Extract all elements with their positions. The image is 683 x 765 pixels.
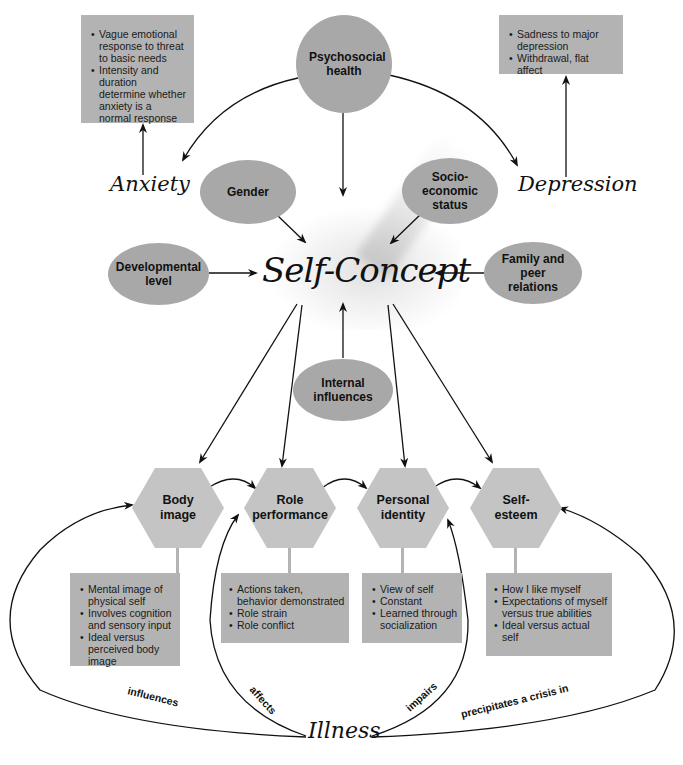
family-peer-label: Family and peer relations: [497, 252, 569, 294]
depression-label: Depression: [518, 172, 638, 196]
personal-identity-note: Learned through socialization: [372, 607, 458, 631]
self-esteem-note: Ideal versus actual self: [494, 619, 608, 643]
illness-label: Illness: [308, 718, 381, 743]
internal-influences-node: Internal influences: [293, 359, 393, 421]
stem-body-image: [176, 548, 179, 573]
anxiety-note: Intensity and duration determine whether…: [91, 64, 186, 124]
self-esteem-note: How I like myself: [494, 583, 608, 595]
role-performance-note: Role conflict: [229, 619, 345, 631]
edge-label-impairs: impairs: [403, 679, 439, 713]
body-image-note: Mental image of physical self: [80, 583, 174, 607]
stem-personal-identity: [401, 548, 404, 573]
edge-label-precipitates: precipitates a crisis in: [460, 682, 570, 720]
depression-note: Withdrawal, flat affect: [509, 52, 615, 76]
socioeconomic-node: Socio-economic status: [402, 158, 498, 224]
personal-identity-note-box: View of self Constant Learned through so…: [362, 573, 462, 643]
gender-node: Gender: [200, 160, 296, 224]
psychosocial-health-label: Psychosocial health: [309, 50, 379, 78]
role-performance-note-box: Actions taken, behavior demonstrated Rol…: [221, 573, 349, 643]
body-image-note: Ideal versus perceived body image: [80, 631, 174, 667]
role-performance-note: Role strain: [229, 607, 345, 619]
depression-note-box: Sadness to major depression Withdrawal, …: [499, 15, 623, 74]
role-performance-label: Role performance: [250, 493, 330, 523]
personal-identity-note: View of self: [372, 583, 458, 595]
body-image-note: Involves cognition and sensory input: [80, 607, 174, 631]
stem-role-performance: [288, 548, 291, 573]
family-peer-node: Family and peer relations: [484, 242, 582, 304]
role-performance-note: Actions taken, behavior demonstrated: [229, 583, 345, 607]
personal-identity-label: Personal identity: [368, 493, 438, 523]
edge-label-influences: influences: [127, 684, 180, 708]
self-esteem-note: Expectations of myself versus true abili…: [494, 595, 608, 619]
self-esteem-note-box: How I like myself Expectations of myself…: [486, 573, 612, 656]
body-image-label: Body image: [153, 493, 203, 523]
depression-note: Sadness to major depression: [509, 28, 615, 52]
self-esteem-label: Self-esteem: [494, 493, 538, 523]
body-image-note-box: Mental image of physical self Involves c…: [70, 573, 180, 666]
developmental-level-label: Developmental level: [114, 260, 204, 288]
edge-label-affects: affects: [248, 683, 280, 716]
gender-label: Gender: [227, 185, 269, 199]
anxiety-note-box: Vague emotional response to threat to ba…: [81, 15, 194, 123]
self-concept-title: Self-Concept: [262, 250, 470, 290]
psychosocial-health-node: Psychosocial health: [296, 15, 392, 113]
anxiety-note: Vague emotional response to threat to ba…: [91, 28, 186, 64]
personal-identity-note: Constant: [372, 595, 458, 607]
socioeconomic-label: Socio-economic status: [414, 170, 486, 212]
internal-influences-label: Internal influences: [313, 376, 373, 404]
developmental-level-node: Developmental level: [108, 243, 209, 305]
anxiety-label: Anxiety: [110, 172, 190, 196]
stem-self-esteem: [514, 548, 517, 573]
